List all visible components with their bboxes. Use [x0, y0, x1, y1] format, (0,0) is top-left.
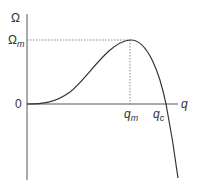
y-axis-label: Ω — [11, 11, 20, 25]
x-axis-label: q — [181, 97, 188, 111]
origin-label: 0 — [15, 97, 22, 111]
omega-max-label: Ωm — [8, 33, 25, 49]
q-critical-label: qc — [153, 107, 165, 123]
omega-q-diagram: Ω Ωm 0 q qm qc — [0, 0, 197, 187]
q-max-label: qm — [124, 107, 139, 123]
